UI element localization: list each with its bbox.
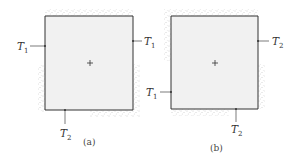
label-t2-bottom-a: T2 [60,109,71,142]
panel-a: T1 T1 T2 (a) [17,9,155,147]
label-t2-bottom-b: T2 [231,108,242,138]
label-t1-right-a: T1 [132,35,155,50]
diagram-figure: T1 T1 T2 (a) [0,0,295,165]
stipple-bottom-b [171,109,229,116]
label-t1-left-b: T1 [146,86,172,101]
panel-b: T2 T1 T2 (b) [146,9,283,153]
label-t2-right-b: T2 [257,35,283,50]
caption-a: (a) [83,137,95,147]
svg-text:T1: T1 [144,35,155,50]
svg-text:T1: T1 [17,40,28,55]
square-b [171,16,258,109]
stipple-right-b [258,64,265,109]
svg-text:T2: T2 [231,123,242,138]
stipple-top-a [45,9,133,16]
stipple-left-a [38,65,45,112]
stipple-right-a [133,64,140,117]
svg-text:T2: T2 [60,127,71,142]
label-t1-left-a: T1 [17,40,46,55]
stipple-left-b [164,9,171,61]
svg-text:T1: T1 [146,86,157,101]
svg-text:T2: T2 [272,35,283,50]
caption-b: (b) [210,143,223,153]
stipple-bottom-a [90,110,133,117]
stipple-top-b [171,9,258,16]
